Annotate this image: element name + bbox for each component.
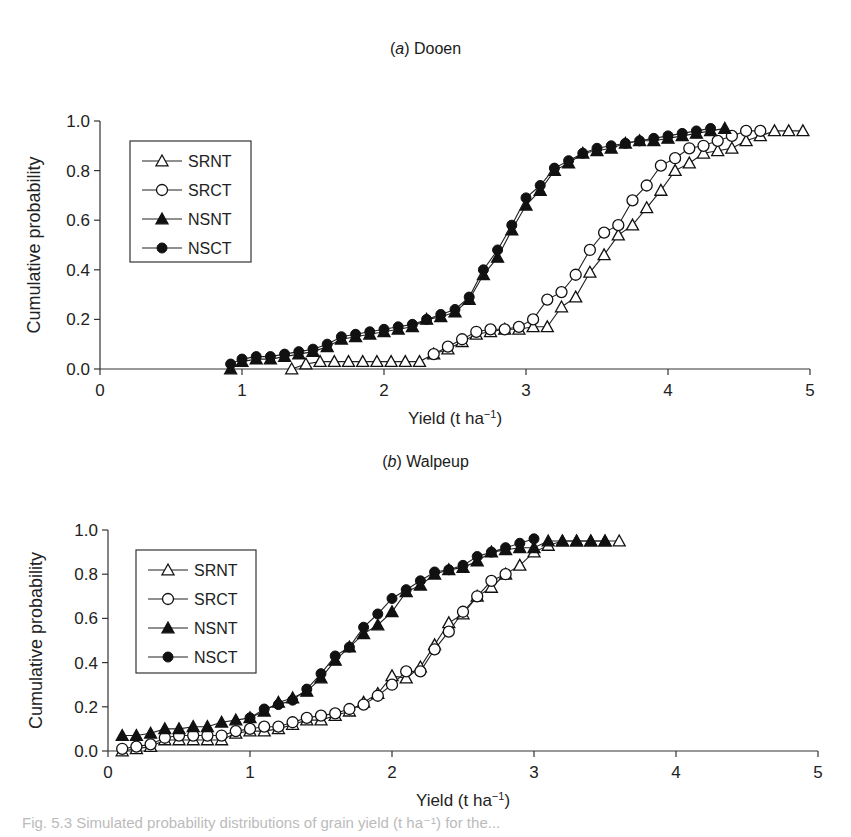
filled-circle-marker [157, 243, 167, 253]
chart-panel-b: 0.00.20.40.60.81.0012345Yield (t ha−1)Cu… [26, 521, 823, 810]
filled-circle-marker [344, 642, 354, 652]
open-circle-marker [163, 594, 174, 605]
open-circle-marker [570, 269, 581, 280]
open-circle-marker [301, 712, 312, 723]
filled-circle-marker [322, 339, 332, 349]
open-circle-marker [513, 321, 524, 332]
filled-circle-marker [245, 713, 255, 723]
open-circle-marker [472, 591, 483, 602]
open-triangle-marker [541, 321, 553, 332]
open-circle-marker [599, 227, 610, 238]
open-triangle-marker [414, 356, 426, 367]
open-circle-marker [457, 334, 468, 345]
filled-triangle-marker [201, 721, 213, 732]
y-tick-label: 0.4 [74, 654, 98, 673]
filled-triangle-marker [386, 606, 398, 617]
open-triangle-marker [385, 356, 397, 367]
legend-label: NSNT [194, 620, 238, 637]
legend-label: SRNT [194, 562, 238, 579]
filled-circle-marker [430, 567, 440, 577]
open-circle-marker [485, 324, 496, 335]
filled-circle-marker [436, 309, 446, 319]
series-line [231, 128, 711, 364]
filled-triangle-marker [187, 721, 199, 732]
open-triangle-marker [797, 125, 809, 136]
figure-canvas: 0.00.20.40.60.81.0012345Yield (t ha−1)Cu… [0, 0, 851, 837]
y-tick-label: 0.6 [74, 609, 98, 628]
filled-circle-marker [302, 684, 312, 694]
filled-circle-marker [592, 143, 602, 153]
filled-circle-marker [422, 314, 432, 324]
x-axis-label: Yield (t ha−1) [408, 408, 502, 428]
open-circle-marker [684, 143, 695, 154]
legend: SRNTSRCTNSNTNSCT [136, 550, 256, 673]
x-tick-label: 0 [95, 381, 104, 400]
filled-circle-marker [265, 352, 275, 362]
filled-circle-marker [407, 319, 417, 329]
open-triangle-marker [556, 301, 568, 312]
open-circle-marker [330, 708, 341, 719]
filled-triangle-marker [599, 535, 611, 546]
filled-circle-marker [535, 180, 545, 190]
filled-circle-marker [649, 133, 659, 143]
filled-triangle-marker [585, 535, 597, 546]
filled-circle-marker [393, 322, 403, 332]
open-circle-marker [755, 125, 766, 136]
open-circle-marker [442, 341, 453, 352]
open-circle-marker [216, 730, 227, 741]
open-circle-marker [145, 739, 156, 750]
open-triangle-marker [683, 157, 695, 168]
open-circle-marker [584, 244, 595, 255]
filled-circle-marker [365, 327, 375, 337]
filled-circle-marker [163, 652, 173, 662]
y-axis-label: Cumulative probability [26, 552, 46, 729]
y-tick-label: 0.8 [74, 565, 98, 584]
open-circle-marker [245, 723, 256, 734]
filled-circle-marker [316, 669, 326, 679]
filled-circle-marker [515, 538, 525, 548]
legend-label: SRCT [194, 591, 238, 608]
x-tick-label: 3 [529, 763, 538, 782]
y-tick-label: 1.0 [74, 521, 98, 540]
filled-circle-marker [387, 594, 397, 604]
y-tick-label: 0.0 [66, 360, 90, 379]
filled-circle-marker [458, 560, 468, 570]
legend-label: SRCT [188, 182, 232, 199]
open-circle-marker [287, 717, 298, 728]
open-triangle-marker [669, 165, 681, 176]
open-circle-marker [273, 721, 284, 732]
open-circle-marker [358, 699, 369, 710]
open-circle-marker [471, 326, 482, 337]
open-circle-marker [528, 314, 539, 325]
open-circle-marker [429, 644, 440, 655]
filled-circle-marker [336, 332, 346, 342]
filled-circle-marker [359, 622, 369, 632]
legend: SRNTSRCTNSNTNSCT [130, 141, 251, 262]
filled-circle-marker [226, 359, 236, 369]
open-triangle-marker [783, 125, 795, 136]
open-circle-marker [428, 349, 439, 360]
filled-circle-marker [351, 329, 361, 339]
series-line [434, 131, 761, 354]
series-nsct [245, 534, 539, 723]
filled-circle-marker [493, 245, 503, 255]
filled-circle-marker [237, 354, 247, 364]
filled-circle-marker [288, 695, 298, 705]
x-tick-label: 1 [245, 763, 254, 782]
filled-circle-marker [330, 651, 340, 661]
filled-circle-marker [663, 131, 673, 141]
y-tick-label: 0.4 [66, 261, 90, 280]
filled-circle-marker [501, 543, 511, 553]
open-circle-marker [655, 160, 666, 171]
filled-circle-marker [606, 141, 616, 151]
filled-circle-marker [450, 304, 460, 314]
open-circle-marker [117, 743, 128, 754]
open-circle-marker [344, 704, 355, 715]
filled-circle-marker [549, 163, 559, 173]
x-tick-label: 4 [663, 381, 672, 400]
filled-circle-marker [280, 349, 290, 359]
x-tick-label: 2 [387, 763, 396, 782]
x-tick-label: 1 [237, 381, 246, 400]
open-circle-marker [316, 710, 327, 721]
filled-triangle-marker [556, 535, 568, 546]
